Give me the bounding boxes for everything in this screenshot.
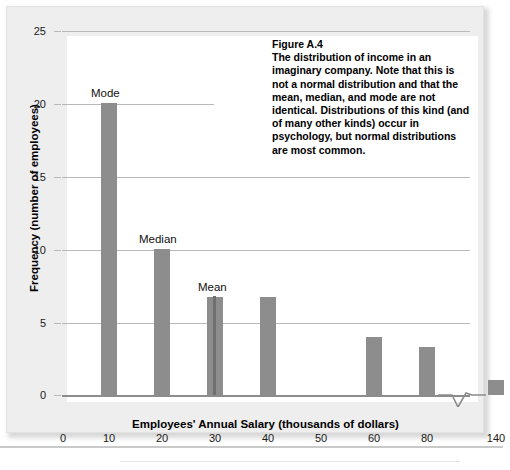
- ytick-dash-5: [54, 323, 61, 324]
- page-edge-line: [120, 461, 460, 462]
- figure-caption: Figure A.4 The distribution of income in…: [272, 38, 472, 157]
- xtick-label-20: 20: [147, 433, 177, 444]
- xtick-label-50: 50: [306, 433, 336, 444]
- figure-caption-body: The distribution of income in an imagina…: [272, 51, 472, 157]
- ytick-label-25: 25: [20, 26, 46, 37]
- ytick-dash-25: [54, 31, 61, 32]
- ytick-dash-15: [54, 177, 61, 178]
- ytick-dash-20: [54, 104, 61, 105]
- figure-caption-title: Figure A.4: [272, 38, 472, 51]
- xtick-label-30: 30: [200, 433, 230, 444]
- xtick-label-0: 0: [48, 433, 78, 444]
- y-axis-title: Frequency (number of employees): [28, 68, 40, 328]
- axis-break-icon: [438, 383, 486, 407]
- ytick-dash-0: [54, 395, 61, 396]
- x-axis-title: Employees' Annual Salary (thousands of d…: [60, 418, 471, 430]
- xtick-label-140: 140: [481, 433, 510, 444]
- xtick-label-80: 80: [412, 433, 442, 444]
- ytick-dash-10: [54, 250, 61, 251]
- xtick-label-10: 10: [94, 433, 124, 444]
- xtick-label-60: 60: [359, 433, 389, 444]
- bar-140-value: [488, 380, 504, 395]
- ytick-label-0: 0: [20, 390, 46, 401]
- page-edge-shadow: [0, 446, 503, 448]
- xtick-label-40: 40: [253, 433, 283, 444]
